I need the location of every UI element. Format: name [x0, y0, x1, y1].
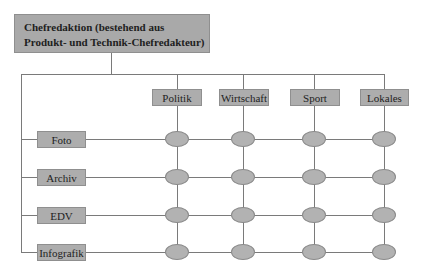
row-label: EDV — [50, 210, 73, 222]
node-archiv-politik — [165, 169, 189, 185]
node-infografik-sport — [302, 244, 326, 260]
column-label: Sport — [303, 92, 327, 104]
column-box-politik: Politik — [152, 89, 202, 106]
node-archiv-lokales — [372, 169, 396, 185]
row-box-infografik: Infografik — [37, 244, 86, 261]
column-label: Wirtschaft — [221, 92, 267, 104]
root-box-chefredaktion: Chefredaktion (bestehend aus Produkt- un… — [14, 14, 210, 53]
row-label: Archiv — [46, 172, 77, 184]
column-label: Lokales — [367, 92, 402, 104]
row-box-edv: EDV — [37, 207, 86, 224]
column-box-sport: Sport — [290, 89, 340, 106]
top-bus-line — [21, 74, 385, 75]
node-archiv-sport — [302, 169, 326, 185]
node-edv-lokales — [372, 207, 396, 223]
node-edv-politik — [165, 207, 189, 223]
node-edv-wirtschaft — [231, 207, 255, 223]
node-infografik-lokales — [372, 244, 396, 260]
row-label: Infografik — [39, 247, 84, 259]
node-foto-sport — [302, 131, 326, 147]
column-box-wirtschaft: Wirtschaft — [219, 89, 269, 106]
node-infografik-wirtschaft — [231, 244, 255, 260]
node-foto-wirtschaft — [231, 131, 255, 147]
org-matrix-diagram: Chefredaktion (bestehend aus Produkt- un… — [0, 0, 423, 277]
node-infografik-politik — [165, 244, 189, 260]
root-label-line1: Chefredaktion (bestehend aus — [24, 20, 209, 35]
left-bus-line — [21, 74, 22, 253]
row-box-foto: Foto — [37, 131, 86, 148]
root-connector — [111, 53, 112, 74]
node-foto-lokales — [372, 131, 396, 147]
node-archiv-wirtschaft — [231, 169, 255, 185]
node-foto-politik — [165, 131, 189, 147]
row-label: Foto — [51, 134, 71, 146]
node-edv-sport — [302, 207, 326, 223]
row-box-archiv: Archiv — [37, 169, 86, 186]
root-label-line2: Produkt- und Technik-Chefredakteur) — [24, 35, 209, 50]
column-box-lokales: Lokales — [360, 89, 409, 106]
column-label: Politik — [162, 92, 191, 104]
